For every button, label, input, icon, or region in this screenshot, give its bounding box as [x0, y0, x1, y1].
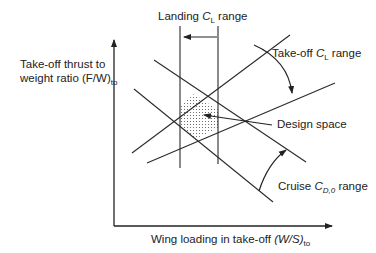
- x-axis-label: Wing loading in take-off (W/S)to: [151, 232, 310, 246]
- takeoff-cl-range-label: Take-off CL range: [272, 46, 361, 60]
- y-axis-label-text: weight ratio (F/W): [20, 72, 111, 84]
- y-axis-label-sub: to: [111, 78, 118, 87]
- landing-label-prefix: Landing: [158, 10, 202, 22]
- cruise-limit-upper: [154, 60, 306, 162]
- cruise-label-sub: D,0: [323, 186, 335, 195]
- cruise-label-prefix: Cruise: [278, 180, 314, 192]
- y-axis-label-line2: weight ratio (F/W)to: [20, 71, 117, 85]
- landing-label-suffix: range: [215, 10, 248, 22]
- design-space-label: Design space: [277, 117, 347, 131]
- takeoff-label-prefix: Take-off: [272, 47, 316, 59]
- takeoff-label-var: C: [316, 47, 324, 59]
- landing-cl-range-label: Landing CL range: [158, 9, 248, 23]
- takeoff-label-suffix: range: [329, 47, 362, 59]
- cruise-label-var: C: [314, 180, 322, 192]
- y-axis-label-line1: Take-off thrust to: [20, 57, 117, 71]
- x-axis-label-var: (W/S): [274, 233, 303, 245]
- cruise-label-suffix: range: [335, 180, 368, 192]
- x-axis-label-text: Wing loading in take-off: [151, 233, 274, 245]
- y-axis-label: Take-off thrust to weight ratio (F/W)to: [20, 57, 117, 85]
- cruise-cd0-range-label: Cruise CD,0 range: [278, 179, 368, 193]
- x-axis-label-sub: to: [304, 239, 311, 248]
